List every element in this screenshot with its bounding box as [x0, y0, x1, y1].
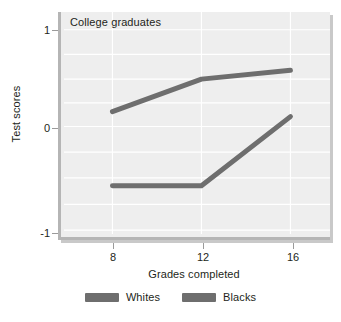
legend-label-blacks: Blacks [223, 291, 256, 303]
plot-area [58, 12, 330, 240]
series-line-whites [112, 70, 290, 111]
chart-legend: Whites Blacks [0, 291, 341, 303]
legend-item-whites: Whites [85, 291, 160, 303]
x-tick-mark-16 [293, 243, 294, 249]
x-tick-mark-8 [113, 243, 114, 249]
chart-figure: Test scores 1 0 -1 [0, 0, 341, 322]
legend-label-whites: Whites [126, 291, 160, 303]
x-axis-title: Grades completed [58, 268, 330, 280]
legend-item-blacks: Blacks [182, 291, 256, 303]
data-lines [61, 12, 330, 237]
y-tick-label-0: 0 [28, 123, 50, 134]
x-tick-label-16: 16 [278, 251, 308, 263]
y-axis-title: Test scores [10, 54, 22, 174]
x-tick-label-8: 8 [98, 251, 128, 263]
x-tick-label-12: 12 [188, 251, 218, 263]
plot-title: College graduates [70, 16, 161, 28]
y-tick-label-1: 1 [28, 25, 50, 36]
legend-swatch-whites [85, 293, 119, 302]
y-tick-label-neg1: -1 [28, 228, 50, 239]
series-line-blacks [112, 117, 290, 186]
x-tick-mark-12 [203, 243, 204, 249]
legend-swatch-blacks [182, 293, 216, 302]
